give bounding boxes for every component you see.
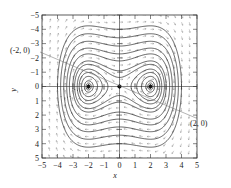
y-tick-label: 1 <box>35 97 39 106</box>
y-tick-label: −4 <box>30 25 39 34</box>
phase-portrait-plot: −5−4−3−2−1012345543210−1−2−3−4−5 <box>0 0 231 188</box>
x-tick-label: 1 <box>133 161 137 170</box>
x-tick-label: −4 <box>53 161 62 170</box>
x-axis-title: x <box>113 172 117 180</box>
equilibrium-saddle <box>87 85 91 89</box>
x-tick-label: −2 <box>84 161 93 170</box>
x-tick-label: 4 <box>180 161 184 170</box>
y-tick-label: −3 <box>30 39 39 48</box>
y-tick-label: −5 <box>30 11 39 20</box>
y-axis-title: y <box>10 88 18 92</box>
x-tick-label: −5 <box>38 161 47 170</box>
phase-portrait-figure: −5−4−3−2−1012345543210−1−2−3−4−5 x y (-2… <box>0 0 231 188</box>
y-tick-label: −2 <box>30 54 39 63</box>
y-tick-label: −1 <box>30 68 39 77</box>
equilibrium-saddle <box>149 85 153 89</box>
x-tick-label: 3 <box>164 161 168 170</box>
y-tick-label: 5 <box>35 154 39 163</box>
x-tick-label: 5 <box>195 161 199 170</box>
y-tick-label: 2 <box>35 111 39 120</box>
x-tick-label: −3 <box>69 161 78 170</box>
x-tick-label: 2 <box>149 161 153 170</box>
x-tick-label: 0 <box>118 161 122 170</box>
label-right-saddle-point: (2, 0) <box>190 120 207 128</box>
y-tick-label: 0 <box>35 82 39 91</box>
y-tick-label: 4 <box>35 140 39 149</box>
y-tick-label: 3 <box>35 125 39 134</box>
x-tick-label: −1 <box>100 161 109 170</box>
label-left-saddle-point: (-2, 0) <box>10 47 30 55</box>
